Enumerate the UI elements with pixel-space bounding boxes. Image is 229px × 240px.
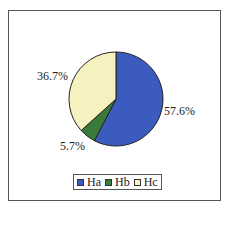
legend-label-hc: Hc: [144, 175, 158, 190]
label-hb: 5.7%: [60, 139, 85, 154]
legend-swatch-hb: [105, 179, 112, 186]
label-ha: 57.6%: [164, 104, 195, 119]
legend-item-ha: Ha: [77, 175, 101, 190]
legend-swatch-hc: [134, 179, 141, 186]
legend-label-ha: Ha: [87, 175, 101, 190]
legend-item-hb: Hb: [105, 175, 130, 190]
legend-item-hc: Hc: [134, 175, 158, 190]
legend-label-hb: Hb: [115, 175, 130, 190]
label-hc: 36.7%: [37, 69, 68, 84]
legend-swatch-ha: [77, 179, 84, 186]
pie-slices: [69, 52, 163, 146]
chart-legend: Ha Hb Hc: [73, 174, 162, 190]
